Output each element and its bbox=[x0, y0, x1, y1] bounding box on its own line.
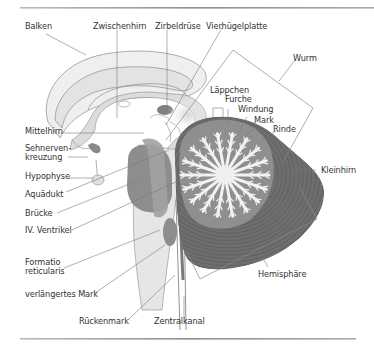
label-hypophyse: Hypophyse bbox=[25, 172, 70, 182]
arbor-twig bbox=[209, 143, 210, 149]
arbor-twig bbox=[205, 137, 206, 143]
arbor-twig bbox=[201, 160, 207, 161]
arbor-twig bbox=[201, 189, 207, 190]
label-balken: Balken bbox=[25, 22, 52, 32]
label-zentralkanal: Zentralkanal bbox=[154, 317, 205, 327]
arbor-twig bbox=[255, 151, 261, 152]
arbor-twig bbox=[255, 199, 261, 200]
label-mittelhirn: Mittelhirn bbox=[25, 127, 63, 137]
label-rinde: Rinde bbox=[273, 125, 296, 135]
label-hemisphaere: Hemisphäre bbox=[258, 270, 306, 280]
label-rueckenmark: Rückenmark bbox=[79, 317, 129, 327]
arbor-twig bbox=[244, 137, 245, 143]
arbor-twig bbox=[236, 150, 237, 156]
brain-diagram: Balken Zwischenhirn Zirbeldrüse Vierhüge… bbox=[0, 0, 374, 350]
bottom-rule bbox=[20, 338, 356, 340]
arbor-twig bbox=[209, 201, 210, 207]
optic-chiasm bbox=[88, 143, 101, 153]
label-kleinhirn: Kleinhirn bbox=[321, 166, 356, 176]
top-rule bbox=[20, 7, 374, 9]
arbor-twig bbox=[213, 194, 214, 200]
formatio-reticularis bbox=[163, 218, 177, 246]
arbor-twig bbox=[240, 143, 241, 149]
arbor-twig bbox=[189, 151, 195, 152]
arbor-center bbox=[216, 166, 234, 184]
label-zirbeldruese: Zirbeldrüse bbox=[155, 22, 201, 32]
arbor-twig bbox=[249, 155, 255, 156]
arbor-twig bbox=[189, 199, 195, 200]
label-wurm: Wurm bbox=[293, 54, 317, 64]
label-verlaengertes-mark: verlängertes Mark bbox=[25, 290, 98, 300]
label-aquaedukt: Aquädukt bbox=[25, 190, 63, 200]
label-iv-ventrikel: IV. Ventrikel bbox=[25, 226, 72, 236]
arbor-twig bbox=[213, 150, 214, 156]
arbor-twig bbox=[243, 160, 249, 161]
label-zwischenhirn: Zwischenhirn bbox=[93, 22, 146, 32]
label-mark-cerebellum: Mark bbox=[254, 116, 274, 126]
arbor-twig bbox=[195, 194, 201, 195]
arbor-twig bbox=[236, 194, 237, 200]
arbor-twig bbox=[240, 201, 241, 207]
arbor-twig bbox=[243, 189, 249, 190]
arbor-twig bbox=[249, 194, 255, 195]
arbor-twig bbox=[244, 207, 245, 213]
arbor-twig bbox=[195, 155, 201, 156]
label-vierhuegelplatte: Vierhügelplatte bbox=[206, 22, 267, 32]
label-bruecke: Brücke bbox=[25, 209, 53, 219]
hypophysis bbox=[92, 175, 104, 185]
arbor-twig bbox=[205, 207, 206, 213]
label-sehnervenkreuzung-2: kreuzung bbox=[25, 153, 62, 163]
label-windung: Windung bbox=[238, 105, 273, 115]
label-formatio-2: reticularis bbox=[25, 267, 65, 277]
